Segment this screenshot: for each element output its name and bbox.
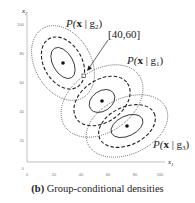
- center-g2: [61, 61, 65, 65]
- label-g1: P(x | g1): [126, 54, 164, 68]
- annotation-label: [40,60]: [108, 28, 140, 40]
- y-tick-80: 80: [20, 51, 25, 56]
- center-g3: [125, 124, 129, 128]
- y-axis-label: x2: [21, 7, 28, 16]
- annotated-point-marker: [82, 74, 86, 78]
- axes: [27, 15, 165, 162]
- caption-text: Group-conditional densities: [44, 183, 164, 194]
- arrowhead-icon: [87, 66, 92, 72]
- x-tick-80: 80: [133, 172, 138, 177]
- y-tick-40: 40: [20, 109, 25, 114]
- x-axis-label: x1: [167, 158, 174, 167]
- caption-prefix: (b): [31, 183, 44, 194]
- figure-caption: (b) Group-conditional densities: [0, 183, 195, 194]
- x-tick-60: 60: [106, 172, 111, 177]
- group-conditional-density-figure: 100 80 60 40 20 0 0 20 40 60 80 100 x2 x…: [0, 0, 195, 203]
- y-tick-labels: 100 80 60 40 20 0: [17, 22, 24, 171]
- y-tick-0: 0: [22, 166, 25, 171]
- x-tick-40: 40: [79, 172, 84, 177]
- center-g1: [100, 99, 104, 103]
- y-tick-60: 60: [20, 80, 25, 85]
- x-tick-100: 100: [157, 172, 164, 177]
- x-tick-labels: 0 20 40 60 80 100: [26, 172, 164, 177]
- annotation-arrow: [89, 40, 108, 68]
- label-g2: P(x | g2): [65, 17, 103, 31]
- x-tick-0: 0: [26, 172, 29, 177]
- y-tick-100: 100: [17, 22, 24, 27]
- label-g3: P(x | g3): [152, 138, 190, 152]
- x-tick-20: 20: [52, 172, 57, 177]
- y-tick-20: 20: [20, 138, 25, 143]
